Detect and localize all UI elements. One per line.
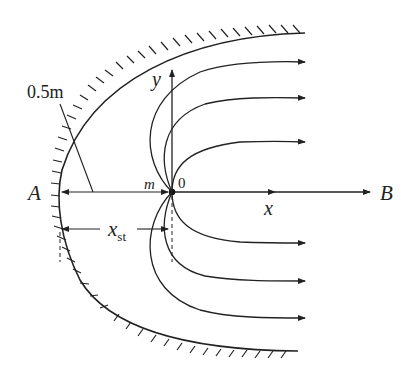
label-x-axis: x (263, 197, 273, 219)
x-axis (172, 189, 370, 195)
wall-width-leader (60, 104, 93, 192)
label-wall-width: 0.5m (27, 82, 64, 102)
label-origin: 0 (178, 175, 186, 191)
label-A: A (26, 181, 41, 205)
flow-diagram: A B x y 0 m 0.5m xst (0, 0, 415, 380)
label-B: B (380, 181, 393, 205)
label-stagnation-distance: xst (107, 217, 126, 244)
label-y-axis: y (150, 68, 161, 91)
label-source-strength: m (144, 176, 155, 192)
